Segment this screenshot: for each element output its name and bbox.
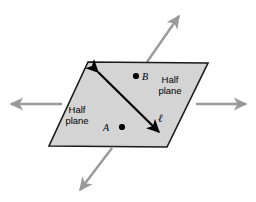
half-plane-right-label: Half plane <box>148 75 192 96</box>
point-a-label: A <box>103 122 109 133</box>
arrow-lower-left <box>80 148 112 190</box>
geometry-figure: Half plane Half plane A B ℓ <box>0 0 256 202</box>
point-b-label: B <box>142 71 148 82</box>
half-plane-left-label: Half plane <box>55 105 99 126</box>
line-ell-label: ℓ <box>158 112 163 124</box>
arrow-upper-right <box>147 16 179 62</box>
figure-canvas <box>0 0 256 202</box>
point-a-dot <box>119 124 125 130</box>
point-b-dot <box>133 73 139 79</box>
